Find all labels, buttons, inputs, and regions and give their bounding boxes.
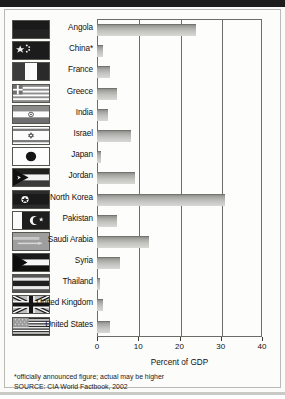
chart-row: Pakistan: [0, 210, 285, 231]
x-tick: [97, 337, 98, 341]
value-bar: [97, 215, 117, 227]
value-bar: [97, 151, 101, 163]
x-tick: [262, 337, 263, 341]
country-label: North Korea: [0, 193, 93, 202]
x-tick: [138, 337, 139, 341]
chart-row: Israel: [0, 125, 285, 146]
bar-track: [97, 273, 262, 294]
chart-row: Jordan: [0, 167, 285, 188]
footnote-text: *officially announced figure; actual may…: [14, 372, 254, 382]
country-label: Thailand: [0, 277, 93, 286]
bar-track: [97, 146, 262, 167]
value-bar: [97, 66, 110, 78]
value-bar: [97, 45, 103, 57]
bar-track: [97, 61, 262, 82]
country-label: Pakistan: [0, 214, 93, 223]
bar-track: [97, 316, 262, 337]
x-axis-title: Percent of GDP: [97, 358, 262, 367]
bottom-divider: [0, 392, 285, 395]
x-tick-label: 40: [258, 342, 267, 351]
x-axis: 010203040: [97, 337, 262, 359]
chart-page: AngolaChina*FranceGreeceIndiaIsraelJapan…: [0, 7, 285, 392]
chart-rows: AngolaChina*FranceGreeceIndiaIsraelJapan…: [0, 19, 285, 337]
x-tick-label: 20: [175, 342, 184, 351]
country-label: Saudi Arabia: [0, 235, 93, 244]
x-tick: [221, 337, 222, 341]
bar-track: [97, 231, 262, 252]
chart-row: Syria: [0, 252, 285, 273]
value-bar: [97, 24, 196, 36]
country-label: Jordan: [0, 171, 93, 180]
bar-track: [97, 40, 262, 61]
chart-row: Thailand: [0, 273, 285, 294]
chart-notes: *officially announced figure; actual may…: [14, 372, 254, 392]
bar-track: [97, 210, 262, 231]
bar-track: [97, 104, 262, 125]
chart-row: Saudi Arabia: [0, 231, 285, 252]
value-bar: [97, 88, 117, 100]
country-label: France: [0, 65, 93, 74]
chart-row: India: [0, 104, 285, 125]
country-label: India: [0, 108, 93, 117]
value-bar: [97, 130, 131, 142]
bar-track: [97, 189, 262, 210]
chart-row: United States: [0, 316, 285, 337]
top-header-bar: [0, 0, 285, 7]
country-label: Japan: [0, 150, 93, 159]
bar-track: [97, 252, 262, 273]
value-bar: [97, 257, 120, 269]
chart-row: China*: [0, 40, 285, 61]
country-label: Greece: [0, 87, 93, 96]
value-bar: [97, 236, 149, 248]
bar-track: [97, 294, 262, 315]
bar-track: [97, 125, 262, 146]
chart-row: France: [0, 61, 285, 82]
value-bar: [97, 321, 110, 333]
chart-row: Japan: [0, 146, 285, 167]
country-label: United Kingdom: [0, 298, 93, 307]
value-bar: [97, 299, 103, 311]
country-label: Angola: [0, 23, 93, 32]
x-tick: [180, 337, 181, 341]
country-label: United States: [0, 320, 93, 329]
x-tick-label: 30: [216, 342, 225, 351]
country-label: Israel: [0, 129, 93, 138]
value-bar: [97, 172, 135, 184]
x-tick-label: 10: [134, 342, 143, 351]
value-bar: [97, 278, 100, 290]
chart-row: Greece: [0, 83, 285, 104]
bar-track: [97, 83, 262, 104]
x-tick-label: 0: [95, 342, 99, 351]
chart-row: Angola: [0, 19, 285, 40]
bar-track: [97, 19, 262, 40]
source-text: SOURCE: CIA World Factbook, 2002: [14, 382, 254, 392]
country-label: China*: [0, 44, 93, 53]
bar-track: [97, 167, 262, 188]
value-bar: [97, 194, 225, 206]
chart-row: United Kingdom: [0, 294, 285, 315]
chart-row: North Korea: [0, 189, 285, 210]
country-label: Syria: [0, 256, 93, 265]
value-bar: [97, 109, 108, 121]
